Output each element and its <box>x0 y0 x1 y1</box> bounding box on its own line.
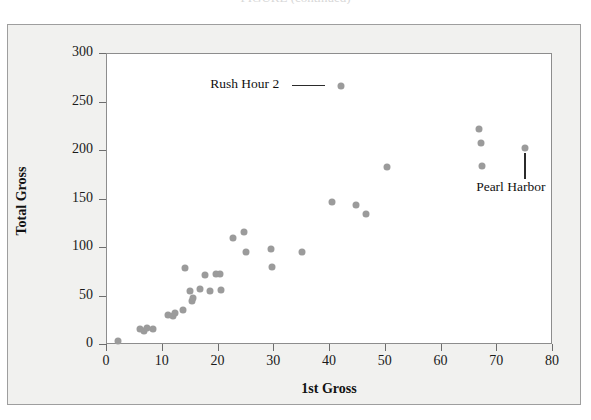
data-point <box>522 145 529 152</box>
data-point <box>179 307 186 314</box>
y-tick-label: 100 <box>72 238 93 254</box>
annotation-leader-line <box>524 153 525 179</box>
x-tick-label: 30 <box>266 353 280 369</box>
data-point <box>186 287 193 294</box>
data-point <box>182 265 189 272</box>
x-tick-mark <box>496 344 497 351</box>
data-point <box>241 228 248 235</box>
y-tick-label: 50 <box>79 287 93 303</box>
x-tick-label: 0 <box>103 353 110 369</box>
y-tick-mark <box>99 102 106 103</box>
x-tick-mark <box>441 344 442 351</box>
y-tick-label: 150 <box>72 190 93 206</box>
data-point <box>217 286 224 293</box>
data-point <box>352 202 359 209</box>
x-tick-mark <box>162 344 163 351</box>
x-tick-label: 70 <box>489 353 503 369</box>
annotation-leader-line <box>292 85 325 86</box>
x-tick-mark <box>385 344 386 351</box>
x-axis-title: 1st Gross <box>106 381 552 397</box>
plot-frame <box>106 53 552 344</box>
data-point <box>476 125 483 132</box>
x-tick-mark <box>273 344 274 351</box>
x-tick-label: 60 <box>434 353 448 369</box>
data-point <box>196 285 203 292</box>
cutoff-caption-text: FIGURE (continued) <box>0 0 591 4</box>
y-tick-mark <box>99 296 106 297</box>
x-tick-label: 20 <box>211 353 225 369</box>
data-point <box>329 199 336 206</box>
data-point <box>383 163 390 170</box>
y-tick-mark <box>99 150 106 151</box>
data-point <box>299 248 306 255</box>
data-point <box>269 264 276 271</box>
y-tick-mark <box>99 53 106 54</box>
data-point <box>216 271 223 278</box>
scatter-plot-canvas <box>107 54 551 343</box>
annotation-label: Rush Hour 2 <box>210 76 279 92</box>
y-tick-mark <box>99 247 106 248</box>
data-point <box>172 309 179 316</box>
y-tick-mark <box>99 199 106 200</box>
y-tick-label: 0 <box>86 335 93 351</box>
data-point <box>189 295 196 302</box>
data-point <box>478 162 485 169</box>
x-tick-mark <box>106 344 107 351</box>
data-point <box>267 245 274 252</box>
x-tick-label: 80 <box>545 353 559 369</box>
data-point <box>243 248 250 255</box>
y-tick-label: 250 <box>72 93 93 109</box>
x-tick-mark <box>218 344 219 351</box>
y-axis-title: Total Gross <box>14 167 30 236</box>
data-point <box>229 235 236 242</box>
x-tick-label: 10 <box>155 353 169 369</box>
data-point <box>206 287 213 294</box>
y-tick-mark <box>99 344 106 345</box>
y-tick-label: 200 <box>72 141 93 157</box>
data-point <box>338 83 345 90</box>
x-tick-mark <box>552 344 553 351</box>
data-point <box>362 211 369 218</box>
figure-panel: Total Gross 1st Gross 050100150200250300… <box>7 24 581 405</box>
y-tick-label: 300 <box>72 44 93 60</box>
x-tick-mark <box>329 344 330 351</box>
data-point <box>115 338 122 345</box>
data-point <box>202 272 209 279</box>
annotation-label: Pearl Harbor <box>476 179 545 195</box>
data-point <box>477 140 484 147</box>
data-point <box>149 325 156 332</box>
x-tick-label: 50 <box>378 353 392 369</box>
x-tick-label: 40 <box>322 353 336 369</box>
